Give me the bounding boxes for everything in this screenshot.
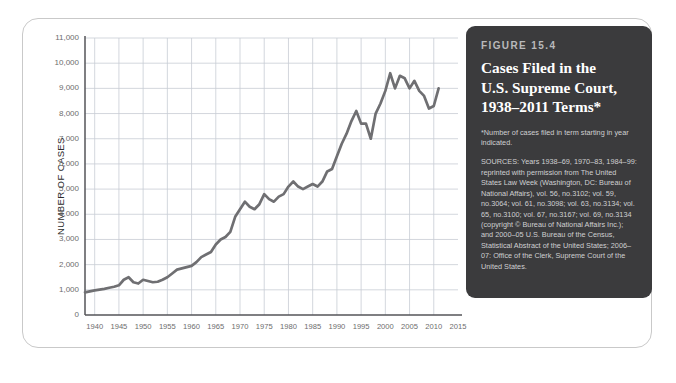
x-axis-tick-label: 1980 xyxy=(280,322,297,331)
figure-title: Cases Filed in the U.S. Supreme Court, 1… xyxy=(481,58,637,117)
x-axis-tick-label: 2005 xyxy=(401,322,418,331)
x-axis-tick-label: 1990 xyxy=(328,322,345,331)
y-axis-tick-label: 0 xyxy=(33,310,79,319)
x-axis-tick-label: 1975 xyxy=(256,322,273,331)
figure-caption-card: FIGURE 15.4 Cases Filed in the U.S. Supr… xyxy=(466,26,652,298)
figure-title-line-3: 1938–2011 Terms* xyxy=(481,98,601,115)
y-axis-tick-label: 1,000 xyxy=(33,285,79,294)
x-axis-tick-label: 1965 xyxy=(207,322,224,331)
x-axis-tick-label: 1985 xyxy=(304,322,321,331)
x-axis-tick-label: 1960 xyxy=(183,322,200,331)
figure-title-line-2: U.S. Supreme Court, xyxy=(481,79,617,96)
sources-text: Years 1938–69, 1970–83, 1984–99: reprint… xyxy=(481,157,637,270)
y-axis-tick-label: 11,000 xyxy=(33,33,79,42)
y-axis-tick-label: 5,000 xyxy=(33,184,79,193)
x-axis-tick-label: 1950 xyxy=(135,322,152,331)
y-axis-tick-label: 7,000 xyxy=(33,134,79,143)
y-axis-tick-label: 3,000 xyxy=(33,234,79,243)
figure-sources: SOURCES: Years 1938–69, 1970–83, 1984–99… xyxy=(481,157,637,272)
figure-title-line-1: Cases Filed in the xyxy=(481,59,596,76)
x-axis-tick-label: 1940 xyxy=(86,322,103,331)
x-axis-tick-label: 1995 xyxy=(353,322,370,331)
x-axis-tick-label: 1945 xyxy=(110,322,127,331)
sources-label: SOURCES: xyxy=(481,157,519,166)
figure-footnote: *Number of cases filed in term starting … xyxy=(481,128,637,149)
y-axis-tick-label: 9,000 xyxy=(33,83,79,92)
x-axis-tick-label: 2015 xyxy=(450,322,467,331)
y-axis-tick-label: 2,000 xyxy=(33,260,79,269)
x-axis-tick-label: 1955 xyxy=(159,322,176,331)
figure-number-label: FIGURE 15.4 xyxy=(481,40,637,51)
y-axis-tick-label: 8,000 xyxy=(33,109,79,118)
x-axis-tick-label: 2000 xyxy=(377,322,394,331)
y-axis-tick-label: 10,000 xyxy=(33,58,79,67)
x-axis-tick-label: 2010 xyxy=(425,322,442,331)
x-axis-tick-label: 1970 xyxy=(232,322,249,331)
y-axis-tick-label: 4,000 xyxy=(33,209,79,218)
y-axis-tick-label: 6,000 xyxy=(33,159,79,168)
